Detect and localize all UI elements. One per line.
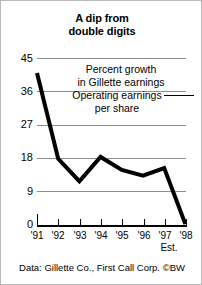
x-tick-93	[80, 219, 81, 226]
estimate-note: Est.	[147, 242, 191, 253]
y-axis-label-27: 27	[7, 119, 33, 130]
x-tick-94	[101, 219, 102, 226]
annotation-operating-earnings: Operating earnings per share	[49, 89, 185, 114]
annotation-operating-line-2: per share	[49, 102, 185, 115]
y-axis-labels: 45 36 27 18 9 0	[5, 58, 33, 226]
source-note: Data: Gillette Co., First Call Corp. ©BW	[1, 262, 202, 273]
x-tick-96	[144, 219, 145, 226]
y-axis-label-45: 45	[7, 53, 33, 64]
y-axis-label-36: 36	[7, 86, 33, 97]
x-tick-97	[165, 219, 166, 226]
chart-title-line-2: double digits	[1, 25, 202, 38]
y-axis-label-0: 0	[7, 219, 33, 230]
x-axis-label-98: '98	[173, 230, 199, 241]
x-tick-92	[58, 219, 59, 226]
chart-title-line-1: A dip from	[1, 12, 202, 25]
annotation-growth-line-1: Percent growth	[53, 63, 189, 76]
annotation-growth-line-2: in Gillette earnings	[53, 76, 189, 89]
x-tick-98	[186, 219, 187, 226]
x-tick-95	[122, 219, 123, 226]
chart-title: A dip from double digits	[1, 12, 202, 38]
chart-figure: A dip from double digits 45 36 27 18 9 0…	[0, 0, 202, 285]
x-tick-91	[37, 219, 38, 226]
legend-dash-icon	[164, 95, 194, 96]
y-axis-label-18: 18	[7, 152, 33, 163]
annotation-percent-growth: Percent growth in Gillette earnings	[53, 63, 189, 88]
y-axis-label-9: 9	[7, 186, 33, 197]
